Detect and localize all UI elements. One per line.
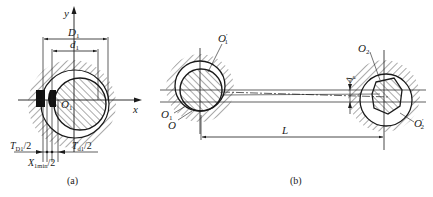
label-TD1-half: TD1/2 bbox=[10, 140, 31, 152]
caption-a: (a) bbox=[67, 175, 78, 187]
x-axis-label: x bbox=[132, 103, 138, 115]
y-axis-arrow-icon bbox=[72, 6, 77, 14]
dot-icon bbox=[46, 151, 49, 154]
label-d1: d1 bbox=[70, 38, 80, 52]
figure-b: Δe L O′1 O1 O O2 O′2 (b) bbox=[160, 32, 426, 187]
label-O2: O2 bbox=[358, 42, 370, 56]
y-axis-label: y bbox=[63, 7, 69, 19]
arrow-icon bbox=[36, 150, 43, 154]
label-L: L bbox=[281, 124, 288, 136]
label-O1-prime: O′1 bbox=[218, 32, 228, 46]
x-axis-arrow-icon bbox=[134, 98, 142, 103]
label-O: O bbox=[168, 119, 176, 131]
label-O2-prime: O′2 bbox=[414, 117, 424, 131]
arrow-icon bbox=[58, 150, 65, 154]
dot-icon bbox=[51, 151, 54, 154]
label-X1min-half: X1min/2 bbox=[27, 157, 55, 169]
hole-tolerance-zone bbox=[36, 90, 45, 107]
figure-a: y x D1 d1 O1 TD1/2 Td1/2 X1min/2 (a) bbox=[10, 6, 142, 187]
assembly-clearance-diagram: y x D1 d1 O1 TD1/2 Td1/2 X1min/2 (a) bbox=[0, 0, 433, 197]
caption-b: (b) bbox=[290, 175, 302, 187]
